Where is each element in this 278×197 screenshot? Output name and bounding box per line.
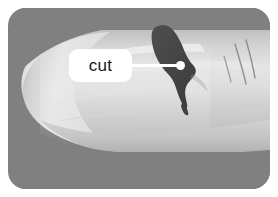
- annotation-label-text: cut: [89, 57, 112, 74]
- annotation-label-cut[interactable]: cut: [69, 49, 132, 82]
- scene-group: [8, 8, 270, 189]
- illustration-canvas: cut: [0, 0, 278, 197]
- annotation-leader-line: [131, 64, 181, 67]
- annotation-leader-dot: [176, 61, 185, 70]
- finger-with-cut-illustration: [0, 0, 278, 197]
